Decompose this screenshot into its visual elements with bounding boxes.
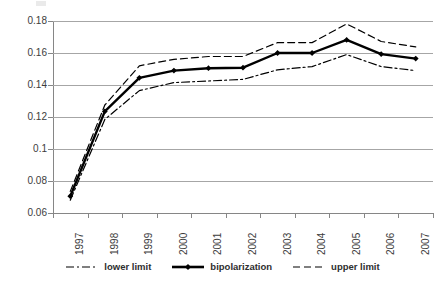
x-tick-mark (260, 213, 261, 218)
y-tick-mark (48, 213, 53, 214)
legend-swatch-icon (171, 262, 205, 272)
y-tick-label: 0.14 (3, 80, 47, 90)
y-tick-label: 0.1 (3, 144, 47, 154)
legend-label: bipolarization (210, 262, 272, 272)
x-tick-mark (433, 213, 434, 218)
x-tick-mark (88, 213, 89, 218)
x-tick-label: 2006 (386, 221, 396, 255)
y-tick-mark (48, 117, 53, 118)
series-line-bipolarization (70, 40, 415, 196)
plot-area (53, 21, 433, 213)
x-tick-label: 2005 (352, 221, 362, 255)
data-point-marker (206, 65, 212, 71)
legend-item-upper-limit[interactable]: upper limit (292, 262, 380, 272)
legend-item-bipolarization[interactable]: bipolarization (171, 262, 272, 272)
x-tick-label: 2003 (283, 221, 293, 255)
x-tick-mark (329, 213, 330, 218)
y-tick-mark (48, 149, 53, 150)
x-tick-label: 1999 (144, 221, 154, 255)
x-tick-label: 2001 (213, 221, 223, 255)
y-tick-label: 0.06 (3, 208, 47, 218)
chart-legend: lower limitbipolarizationupper limit (0, 262, 445, 272)
series-layer (53, 21, 433, 213)
y-axis-labels: 0.180.160.140.120.10.080.06 (0, 0, 47, 282)
legend-swatch-icon (65, 262, 99, 272)
y-tick-mark (48, 21, 53, 22)
series-line-lower-limit (70, 55, 415, 201)
x-tick-mark (122, 213, 123, 218)
legend-label: upper limit (331, 262, 380, 272)
x-tick-label: 2007 (421, 221, 431, 255)
y-tick-mark (48, 85, 53, 86)
data-point-marker (171, 68, 177, 74)
y-tick-mark (48, 181, 53, 182)
legend-swatch-icon (292, 262, 326, 272)
x-tick-mark (364, 213, 365, 218)
y-tick-label: 0.12 (3, 112, 47, 122)
legend-label: lower limit (104, 262, 151, 272)
y-tick-label: 0.18 (3, 16, 47, 26)
x-tick-label: 2002 (248, 221, 258, 255)
x-tick-mark (191, 213, 192, 218)
x-tick-label: 1998 (110, 221, 120, 255)
series-line-upper-limit (70, 24, 415, 192)
x-tick-mark (157, 213, 158, 218)
x-tick-label: 2000 (179, 221, 189, 255)
y-tick-label: 0.16 (3, 48, 47, 58)
y-tick-mark (48, 53, 53, 54)
x-tick-mark (226, 213, 227, 218)
x-tick-mark (398, 213, 399, 218)
legend-item-lower-limit[interactable]: lower limit (65, 262, 151, 272)
x-tick-mark (295, 213, 296, 218)
chart-container: 0.180.160.140.120.10.080.06 199719981999… (0, 0, 445, 282)
x-tick-mark (53, 213, 54, 218)
data-point-marker (413, 56, 419, 62)
x-tick-label: 2004 (317, 221, 327, 255)
y-tick-label: 0.08 (3, 176, 47, 186)
x-axis-line (53, 213, 434, 214)
x-tick-label: 1997 (75, 221, 85, 255)
